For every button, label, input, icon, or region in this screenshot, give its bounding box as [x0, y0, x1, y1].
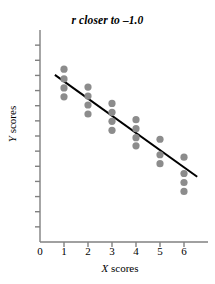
data-point: [132, 116, 139, 123]
data-point: [108, 109, 115, 116]
data-point: [108, 100, 115, 107]
data-point: [132, 142, 139, 149]
data-point: [60, 66, 67, 73]
data-point: [156, 136, 163, 143]
x-axis-tick-label: 0: [33, 245, 47, 257]
data-point: [60, 84, 67, 91]
data-point: [60, 75, 67, 82]
x-axis-tick-label: 4: [129, 245, 143, 257]
y-axis-ticks: [35, 45, 40, 227]
x-axis-tick-label: 1: [57, 245, 71, 257]
x-axis-tick-label: 3: [105, 245, 119, 257]
plot-area: [0, 0, 215, 284]
data-points: [60, 66, 187, 196]
data-point: [84, 110, 91, 117]
data-point: [132, 125, 139, 132]
data-point: [60, 93, 67, 100]
data-point: [180, 170, 187, 177]
data-point: [132, 134, 139, 141]
data-point: [156, 151, 163, 158]
scatter-plot-figure: r closer to –1.0 Y scores X scores 01234…: [0, 0, 215, 284]
data-point: [108, 127, 115, 134]
x-axis-tick-label: 5: [153, 245, 167, 257]
x-axis-tick-label: 2: [81, 245, 95, 257]
data-point: [180, 179, 187, 186]
data-point: [156, 160, 163, 167]
regression-line: [55, 75, 197, 177]
data-point: [84, 83, 91, 90]
regression-line-segment: [55, 75, 197, 177]
data-point: [108, 118, 115, 125]
data-point: [180, 154, 187, 161]
x-axis-tick-label: 6: [177, 245, 191, 257]
data-point: [84, 92, 91, 99]
data-point: [84, 101, 91, 108]
data-point: [180, 188, 187, 195]
axes: [40, 30, 208, 242]
